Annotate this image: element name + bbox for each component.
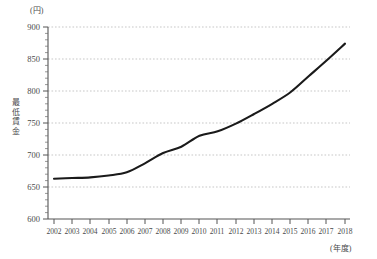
y-tick-label-650: 650 (14, 183, 40, 192)
y-tick-label-850: 850 (14, 55, 40, 64)
y-tick-label-600: 600 (14, 215, 40, 224)
x-axis-title: (年度) (330, 242, 351, 253)
chart-container: (円) 最 低 賃 金 (0, 0, 377, 259)
x-tick-label-2018: 2018 (334, 228, 356, 236)
x-axis-ticks (54, 219, 345, 224)
data-series-line (54, 44, 345, 179)
y-tick-label-750: 750 (14, 119, 40, 128)
gridlines (48, 27, 350, 187)
plot-area (0, 0, 377, 259)
y-tick-label-900: 900 (14, 23, 40, 32)
y-tick-label-800: 800 (14, 87, 40, 96)
y-axis-major-ticks (43, 27, 48, 219)
y-tick-label-700: 700 (14, 151, 40, 160)
